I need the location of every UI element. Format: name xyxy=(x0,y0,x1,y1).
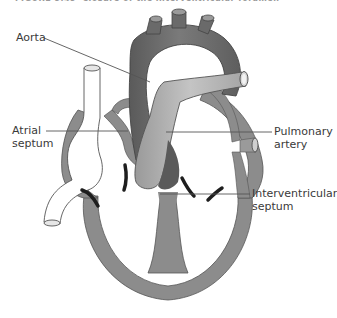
interventricular-septum-shape xyxy=(148,192,188,273)
label-atrial-septum: Atrial septum xyxy=(12,124,53,150)
label-pulmonary-artery: Pulmonary artery xyxy=(274,125,333,151)
right-lower-wall xyxy=(232,152,250,198)
pulmonary-vein-stub xyxy=(240,138,258,152)
label-interventricular-septum: Interventricular septum xyxy=(252,187,337,213)
label-aorta: Aorta xyxy=(16,31,46,44)
